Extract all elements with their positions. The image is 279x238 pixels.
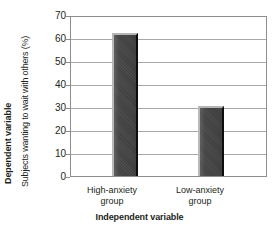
y-tick-label-70: 70 [44, 11, 66, 21]
x-category-label-low-anxiety: Low-anxiety group [162, 185, 238, 207]
y-axis-title: Subjects wanting to wait with others (%) [21, 36, 30, 187]
x-category-label-low-anxiety-line2: group [162, 196, 238, 207]
gridline-20 [71, 131, 266, 132]
gridline-10 [71, 154, 266, 155]
gridline-30 [71, 108, 266, 109]
gridline-40 [71, 85, 266, 86]
y-tick-label-40: 40 [44, 80, 66, 90]
y-tick-label-30: 30 [44, 103, 66, 113]
y-tick-mark-0 [66, 177, 70, 178]
bar-chart-figure: Dependent variable Subjects wanting to w… [0, 0, 279, 238]
y-tick-label-10: 10 [44, 149, 66, 159]
x-category-label-high-anxiety-line1: High-anxiety [74, 185, 150, 196]
plot-area [70, 16, 267, 177]
bar-high-anxiety-group[interactable] [112, 33, 138, 176]
y-tick-label-20: 20 [44, 126, 66, 136]
gridline-60 [71, 39, 266, 40]
y-tick-label-50: 50 [44, 57, 66, 67]
bar-low-anxiety-group[interactable] [198, 106, 224, 176]
y-tick-label-0: 0 [44, 172, 66, 182]
x-category-label-low-anxiety-line1: Low-anxiety [162, 185, 238, 196]
x-category-label-high-anxiety-line2: group [74, 196, 150, 207]
x-category-label-high-anxiety: High-anxiety group [74, 185, 150, 207]
x-axis-title: Independent variable [0, 212, 279, 222]
gridline-50 [71, 62, 266, 63]
y-axis-group-title: Dependent variable [4, 103, 13, 184]
y-tick-label-60: 60 [44, 34, 66, 44]
